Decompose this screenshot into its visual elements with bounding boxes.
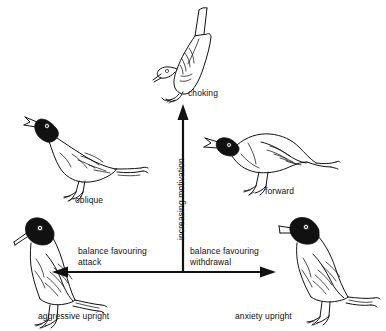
label-choking: choking — [188, 88, 218, 99]
label-anxiety-upright: anxiety upright — [235, 311, 292, 322]
label-increasing-motivation: increasing motivation — [176, 158, 187, 240]
horizontal-right-axis-arrowhead — [260, 267, 276, 278]
label-balance-favouring-withdrawal: balance favouring withdrawal — [190, 246, 259, 267]
vertical-axis-arrowhead — [178, 104, 189, 120]
bird-aggressive-upright — [2, 212, 117, 327]
bird-choking — [147, 2, 257, 102]
eye — [165, 69, 168, 72]
diagram-canvas: choking — [0, 0, 386, 331]
label-aggressive-upright: aggressive upright — [38, 311, 109, 322]
label-oblique: oblique — [75, 195, 103, 206]
label-forward: forward — [265, 186, 294, 197]
bird-oblique — [18, 108, 158, 208]
bird-anxiety-upright — [276, 208, 386, 323]
label-balance-favouring-attack: balance favouring attack — [78, 246, 147, 267]
